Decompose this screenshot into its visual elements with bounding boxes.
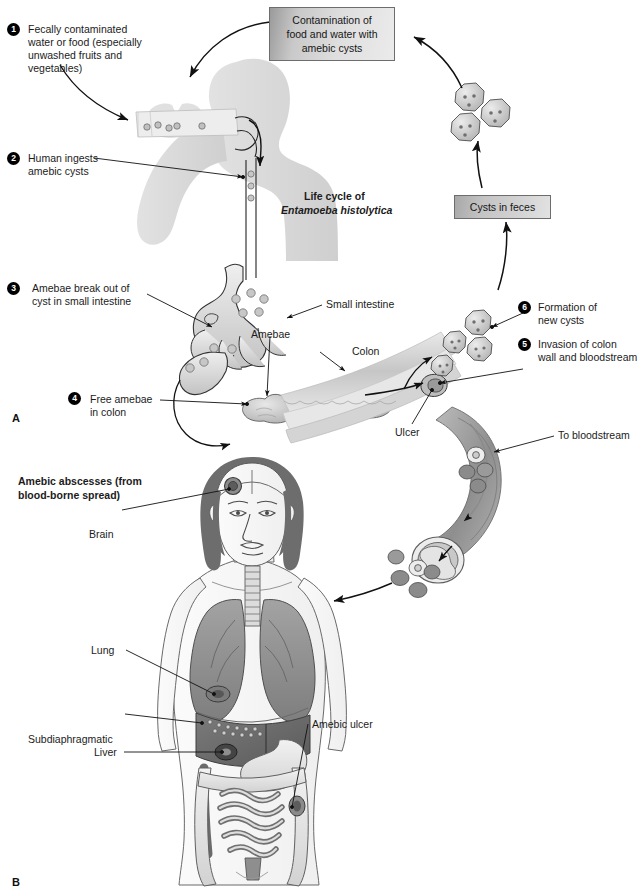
step-6-bullet: 6 [518,301,531,314]
label-amebae: Amebae [251,328,290,341]
panel-letter-b: B [12,876,20,888]
step-4-bullet: 4 [68,392,81,405]
step-3-bullet: 3 [7,282,20,295]
step-3-text: Amebae break out of cyst in small intest… [32,282,131,308]
brain-abscess-lesion [225,478,242,495]
label-lung: Lung [91,644,114,657]
label-ulcer: Ulcer [395,426,420,439]
lung-abscess-lesion [206,686,230,702]
step-6-text: Formation of new cysts [538,301,597,327]
step-2-bullet: 2 [7,152,20,165]
step-2-text: Human ingests amebic cysts [28,152,98,178]
label-amebic-ulcer: Amebic ulcer [312,718,373,731]
label-brain: Brain [89,528,114,541]
contamination-box-text: Contamination of food and water with ame… [286,13,377,55]
label-to-bloodstream: To bloodstream [558,429,630,442]
cysts-in-feces-box: Cysts in feces [454,195,551,219]
abscess-heading: Amebic abscesses (from blood-borne sprea… [18,474,142,502]
contamination-box: Contamination of food and water with ame… [269,7,395,61]
step-5-text: Invasion of colon wall and bloodstream [538,338,637,364]
label-subdiaphragmatic: Subdiaphragmatic [28,733,113,746]
cysts-in-feces-text: Cysts in feces [470,200,535,214]
label-small-intestine: Small intestine [326,298,394,311]
female-body-figure [158,457,347,886]
panel-letter-a: A [12,412,20,424]
step-1-bullet: 1 [7,23,20,36]
label-colon: Colon [352,345,379,358]
cycle-title-line1: Life cycle of [304,190,365,203]
cycle-title-line2: Entamoeba histolytica [281,204,392,217]
step-1-text: Fecally contaminated water or food (espe… [28,23,142,75]
step-5-bullet: 5 [518,338,531,351]
step-4-text: Free amebae in colon [90,393,152,419]
label-liver: Liver [94,746,117,759]
